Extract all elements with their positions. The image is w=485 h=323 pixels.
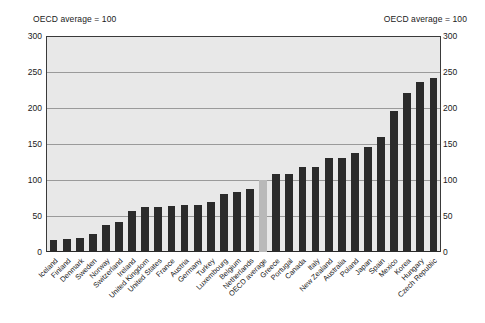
- bar: [115, 222, 123, 252]
- y-tick-right-150: 150: [443, 140, 483, 149]
- y-tick-left-50: 50: [2, 212, 42, 221]
- bar: [430, 78, 438, 252]
- y-tick-left-250: 250: [2, 68, 42, 77]
- y-tick-right-0: 0: [443, 248, 483, 257]
- bar: [233, 192, 241, 252]
- bar: [390, 111, 398, 252]
- bar: [272, 174, 280, 252]
- bar: [351, 153, 359, 252]
- y-tick-right-50: 50: [443, 212, 483, 221]
- bar: [246, 189, 254, 252]
- bar: [299, 167, 307, 252]
- bar: [50, 240, 58, 252]
- bar: [207, 202, 215, 252]
- bar: [194, 205, 202, 252]
- bar: [168, 206, 176, 252]
- y-tick-left-0: 0: [2, 248, 42, 257]
- bar: [141, 207, 149, 252]
- bar: [364, 147, 372, 252]
- bar: [285, 174, 293, 252]
- bar: [89, 234, 97, 252]
- y-tick-right-100: 100: [443, 176, 483, 185]
- bar: [181, 205, 189, 252]
- bar: [63, 239, 71, 252]
- bar: [128, 211, 136, 252]
- bar: [403, 93, 411, 252]
- bar: [416, 82, 424, 252]
- y-tick-left-300: 300: [2, 32, 42, 41]
- bar: [338, 158, 346, 252]
- bar-series: [47, 36, 440, 252]
- bar: [220, 194, 228, 252]
- y-tick-left-150: 150: [2, 140, 42, 149]
- y-tick-right-200: 200: [443, 104, 483, 113]
- bar: [312, 167, 320, 252]
- y-tick-right-250: 250: [443, 68, 483, 77]
- bar: [377, 137, 385, 252]
- plot-area: [46, 36, 441, 252]
- bar: [102, 225, 110, 252]
- bar-chart: OECD average = 100 OECD average = 100 00…: [0, 0, 485, 323]
- y-tick-left-200: 200: [2, 104, 42, 113]
- y-tick-left-100: 100: [2, 176, 42, 185]
- category-labels: IcelandFinlandDenmarkSwedenNorwaySwitzer…: [46, 254, 439, 323]
- bar: [325, 158, 333, 252]
- y-tick-right-300: 300: [443, 32, 483, 41]
- header-note-left: OECD average = 100: [33, 14, 116, 24]
- bar: [154, 207, 162, 252]
- bar: [76, 238, 84, 252]
- bar: [259, 180, 267, 252]
- header-note-right: OECD average = 100: [384, 14, 467, 24]
